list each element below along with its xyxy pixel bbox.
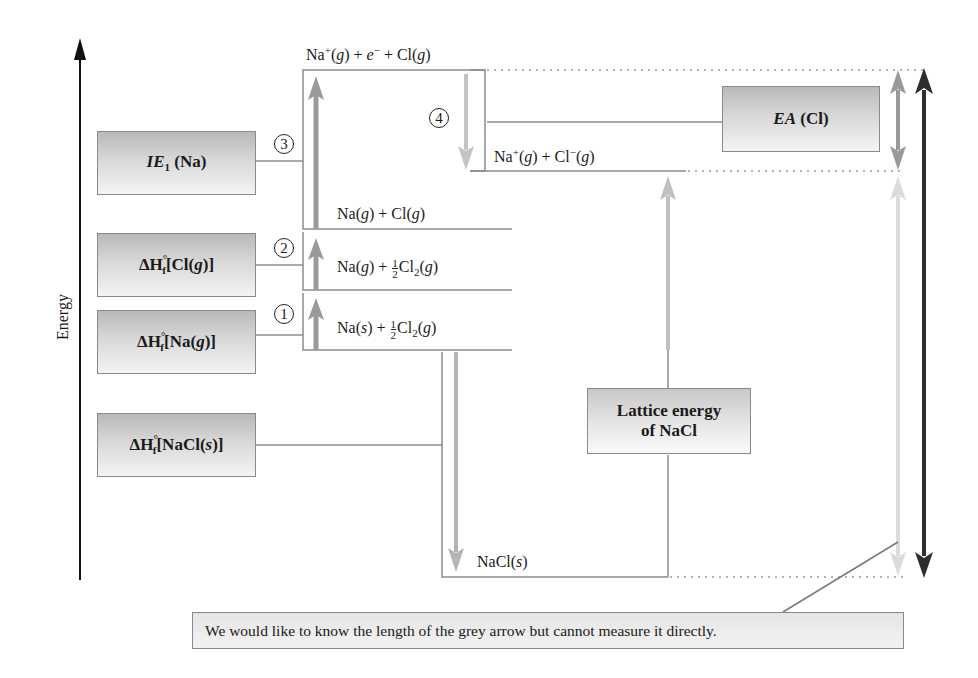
energy-axis: [74, 38, 86, 580]
box-ie1-na: IE1 (Na): [97, 131, 256, 195]
level-label-na-g-half-cl2: Na(g) + 12Cl2(g): [337, 258, 438, 279]
level-label-na-g-cl-g: Na(g) + Cl(g): [337, 205, 425, 223]
box-hf-nacl-s: ΔH°f[NaCl(s)]: [97, 413, 256, 477]
step-3-number: 3: [274, 134, 294, 154]
box-hf-cl-g: ΔH°f[Cl(g)]: [97, 233, 256, 297]
step-1-number: 1: [274, 304, 294, 324]
level-label-top: Na+(g) + e− + Cl(g): [306, 44, 431, 64]
caption-text: We would like to know the length of the …: [205, 622, 717, 640]
caption-box: We would like to know the length of the …: [192, 612, 904, 649]
step-4-number: 4: [429, 108, 449, 128]
box-ea-cl: EA (Cl): [722, 86, 880, 152]
step-2-number: 2: [274, 238, 294, 258]
axis-arrowhead-icon: [74, 38, 86, 60]
box-hf-na-g: ΔH°f[Na(g)]: [97, 310, 256, 374]
axis-label-energy: Energy: [54, 294, 72, 340]
box-lattice-energy: Lattice energy of NaCl: [587, 388, 751, 454]
level-label-elements: Na(s) + 12Cl2(g): [337, 319, 436, 340]
comparison-arrows: [890, 68, 933, 578]
level-label-ions: Na+(g) + Cl−(g): [494, 146, 595, 166]
level-label-nacl-s: NaCl(s): [477, 553, 528, 571]
